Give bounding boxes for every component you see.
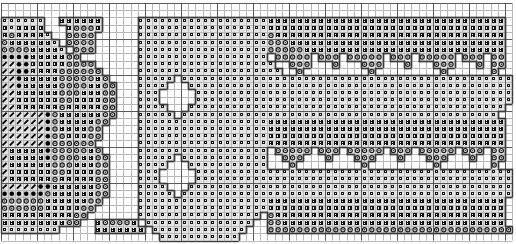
pattern-grid-canvas	[0, 0, 516, 244]
cross-stitch-pattern-chart: Cross Stitch Pattern Chart	[0, 0, 516, 244]
